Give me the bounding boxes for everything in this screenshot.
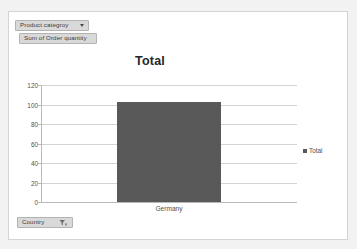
legend-swatch-total (303, 149, 307, 153)
x-axis-line (41, 202, 297, 203)
chart-legend[interactable]: Total (303, 147, 323, 154)
y-axis-ticks (9, 85, 41, 203)
legend-label-total: Total (309, 147, 323, 154)
chart-title: Total (9, 54, 291, 68)
bar-chart: Total 020406080100120 Germany Total (9, 12, 349, 241)
x-axis-tick-label: Germany (41, 205, 297, 212)
pivot-chart-card: Product categroy Sum of Order quantity C… (8, 11, 348, 240)
bar[interactable] (117, 102, 222, 202)
plot-area (41, 85, 297, 202)
report-page-background: Product categroy Sum of Order quantity C… (0, 0, 357, 249)
y-axis-line (41, 85, 42, 203)
gridline (41, 85, 297, 86)
